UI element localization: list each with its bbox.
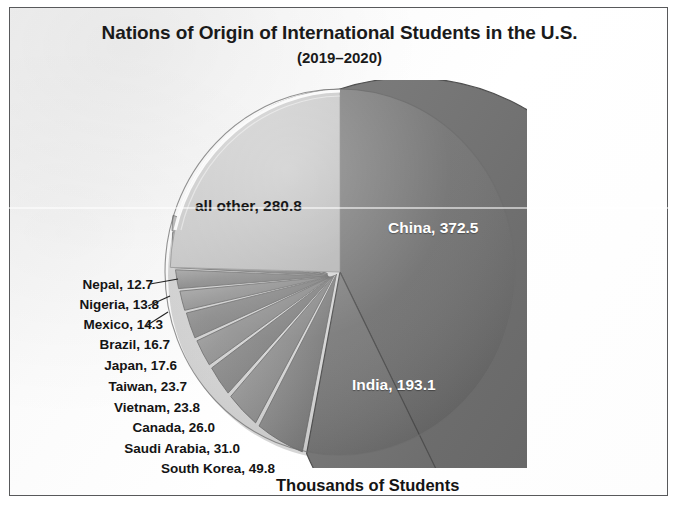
callout-south-korea: South Korea, 49.8 — [10, 461, 275, 476]
callout-taiwan: Taiwan, 23.7 — [10, 379, 187, 394]
callout-japan: Japan, 17.6 — [10, 358, 177, 373]
callout-nigeria: Nigeria, 13.8 — [10, 297, 159, 312]
callout-canada: Canada, 26.0 — [10, 420, 215, 435]
slice-label-china: China, 372.5 — [388, 219, 478, 237]
pie-graphic: China, 372.5 India, 193.1 all other, 280… — [155, 80, 527, 468]
callout-brazil: Brazil, 16.7 — [10, 337, 170, 352]
callout-nepal: Nepal, 12.7 — [10, 277, 153, 292]
callout-mexico: Mexico, 14.3 — [10, 317, 163, 332]
slice-label-all-other: all other, 280.8 — [195, 197, 302, 215]
chart-subtitle: (2019–2020) — [0, 49, 679, 66]
callout-vietnam: Vietnam, 23.8 — [10, 400, 200, 415]
axis-caption: Thousands of Students — [276, 476, 459, 495]
callout-saudi-arabia: Saudi Arabia, 31.0 — [10, 441, 240, 456]
slice-label-india: India, 193.1 — [352, 376, 436, 394]
pie-lighting-overlay — [165, 89, 515, 455]
chart-title: Nations of Origin of International Stude… — [0, 22, 679, 44]
pie-chart-figure: Nations of Origin of International Stude… — [0, 0, 679, 510]
pie-svg — [155, 80, 527, 468]
